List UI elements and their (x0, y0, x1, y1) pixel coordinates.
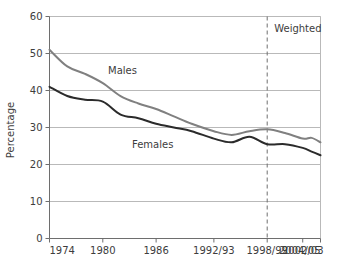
line-chart: 0102030405060 1974198019861992/931998/99… (0, 0, 341, 260)
chart-background (0, 0, 341, 260)
y-tick-label-60: 60 (30, 11, 43, 22)
series-label-females: Females (132, 139, 173, 150)
x-tick-label-2004/05: 2004/05 (279, 245, 321, 256)
y-tick-label-0: 0 (36, 233, 42, 244)
weighted-marker-label: Weighted (274, 23, 321, 34)
x-tick-label-1980: 1980 (90, 245, 115, 256)
y-tick-label-40: 40 (30, 85, 43, 96)
y-tick-label-30: 30 (30, 122, 43, 133)
x-tick-label-1974: 1974 (50, 245, 75, 256)
y-tick-label-50: 50 (30, 48, 43, 59)
y-axis-title: Percentage (5, 102, 16, 158)
chart-container: 0102030405060 1974198019861992/931998/99… (0, 0, 341, 260)
y-tick-label-10: 10 (30, 196, 43, 207)
x-tick-label-1986: 1986 (143, 245, 168, 256)
y-tick-label-20: 20 (30, 159, 43, 170)
series-label-males: Males (108, 65, 137, 76)
x-tick-label-1992/93: 1992/93 (193, 245, 235, 256)
